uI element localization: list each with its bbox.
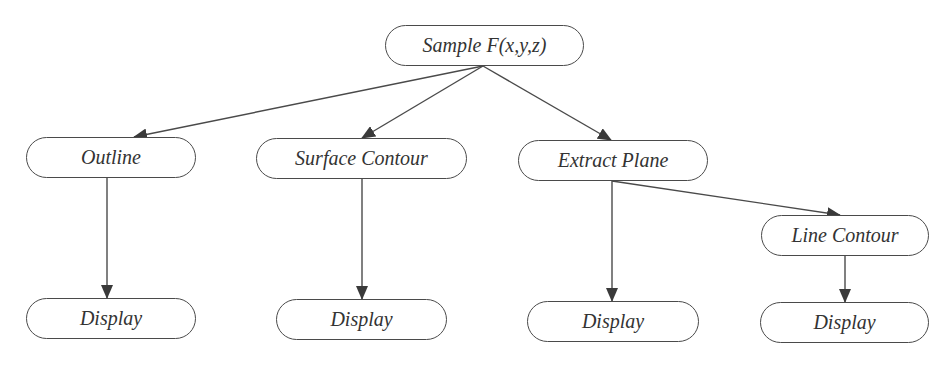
node-label: Display	[813, 311, 875, 334]
node-label: Surface Contour	[295, 147, 428, 170]
node-outline: Outline	[26, 137, 196, 178]
node-label: Line Contour	[791, 224, 898, 247]
node-sample: Sample F(x,y,z)	[385, 25, 584, 66]
node-extract-plane: Extract Plane	[518, 140, 708, 181]
node-label: Sample F(x,y,z)	[423, 34, 547, 57]
node-label: Display	[80, 307, 142, 330]
node-display-1: Display	[26, 298, 196, 339]
node-label: Display	[330, 308, 392, 331]
edge-sample-to-surface_contour	[362, 66, 483, 138]
node-label: Outline	[81, 146, 141, 169]
node-label: Display	[582, 310, 644, 333]
node-line-contour: Line Contour	[761, 215, 929, 256]
edge-sample-to-outline	[134, 66, 483, 137]
node-display-2: Display	[276, 299, 447, 340]
node-display-4: Display	[760, 302, 929, 343]
node-display-3: Display	[527, 301, 699, 342]
node-label: Extract Plane	[558, 149, 669, 172]
node-surface-contour: Surface Contour	[256, 138, 467, 179]
edge-extract_plane-to-line_contour	[612, 181, 840, 215]
edge-sample-to-extract_plane	[483, 66, 611, 140]
